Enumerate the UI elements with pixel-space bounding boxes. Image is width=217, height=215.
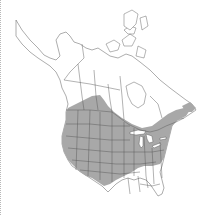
arctic-islands — [106, 26, 146, 58]
map-frame — [0, 0, 217, 215]
north-america-map — [0, 0, 217, 215]
greenland-edge — [140, 16, 148, 30]
ellesmere-island — [124, 10, 138, 30]
